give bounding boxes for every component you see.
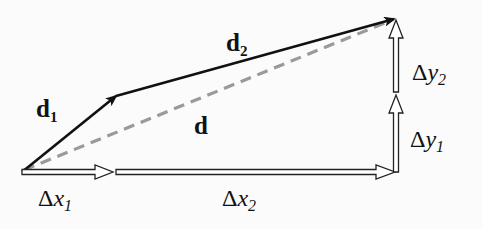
label-dx2: Δx2	[222, 186, 256, 214]
label-dy1: Δy1	[410, 127, 444, 155]
label-dy2: Δy2	[412, 60, 446, 88]
component-dy1-arrow	[389, 95, 403, 172]
label-dx1: Δx1	[38, 186, 72, 214]
component-dx1-arrow	[22, 165, 113, 179]
label-d1: d1	[36, 96, 57, 125]
component-dy2-arrow	[389, 20, 403, 92]
vector-diagram: d1 d2 d Δx1 Δx2 Δy1 Δy2	[0, 0, 482, 229]
label-d: d	[194, 113, 208, 138]
vector-d2	[116, 19, 394, 96]
resultant-vector-d	[24, 20, 392, 170]
label-d2: d2	[226, 30, 247, 59]
component-dx2-arrow	[116, 165, 395, 179]
